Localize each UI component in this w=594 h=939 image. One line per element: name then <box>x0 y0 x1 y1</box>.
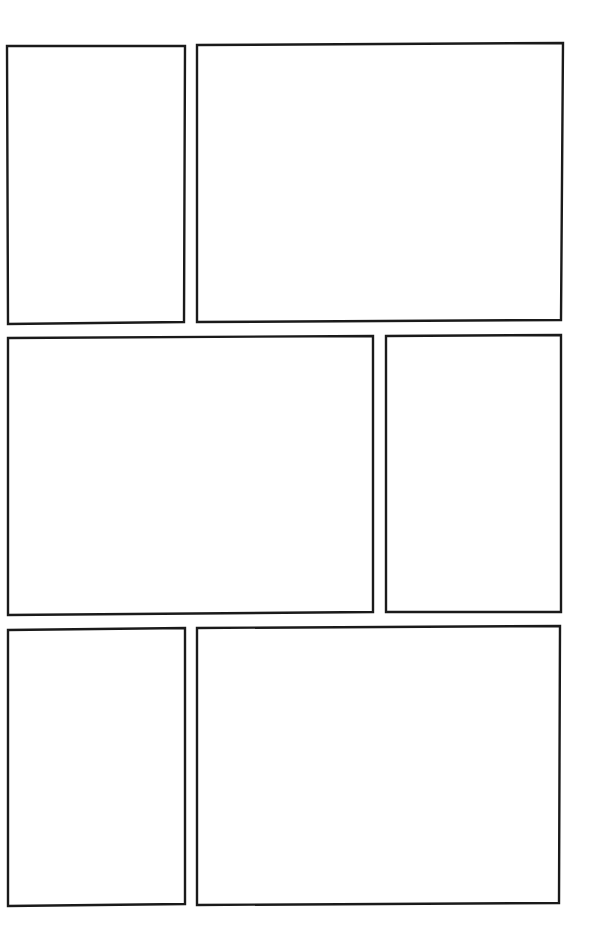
panel-4 <box>386 335 561 612</box>
panel-2 <box>197 43 563 322</box>
comic-page <box>0 0 594 939</box>
panel-5 <box>8 628 185 906</box>
panel-3 <box>8 336 373 615</box>
panel-1 <box>7 46 185 324</box>
panel-6 <box>197 626 560 905</box>
